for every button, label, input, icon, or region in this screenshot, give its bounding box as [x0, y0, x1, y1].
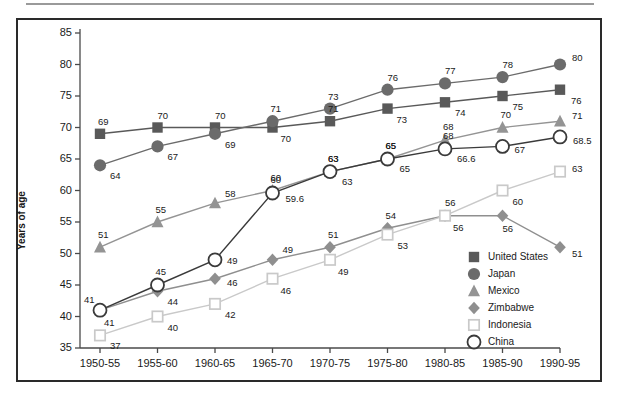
legend-item-china[interactable]: China	[464, 333, 574, 350]
legend-item-mexico[interactable]: Mexico	[464, 282, 574, 299]
data-point-label: 76	[571, 95, 582, 106]
legend-item-indonesia[interactable]: Indonesia	[464, 316, 574, 333]
filled-diamond-icon	[464, 300, 484, 316]
x-tick-label: 1955-60	[128, 357, 188, 369]
data-point-label: 37	[110, 340, 121, 351]
data-point-label: 64	[110, 170, 121, 181]
data-point-label: 60	[271, 174, 282, 185]
data-point-label: 76	[388, 72, 399, 83]
data-point-label: 67	[168, 151, 179, 162]
legend-item-label: Japan	[484, 268, 515, 279]
data-point-label: 75	[513, 101, 524, 112]
data-point-label: 68	[443, 130, 454, 141]
legend-item-japan[interactable]: Japan	[464, 265, 574, 282]
legend-item-label: Indonesia	[484, 319, 531, 330]
data-point-label: 70	[215, 110, 226, 121]
legend-item-zimbabwe[interactable]: Zimbabwe	[464, 299, 574, 316]
data-point-label: 74	[455, 107, 466, 118]
y-tick-label: 75	[40, 89, 72, 101]
data-point-label: 71	[572, 110, 583, 121]
data-point-label: 77	[445, 65, 456, 76]
y-tick-label: 45	[40, 278, 72, 290]
data-point-label: 73	[328, 91, 339, 102]
legend-item-label: United States	[484, 251, 548, 262]
data-point-label: 45	[156, 266, 167, 277]
open-circle-icon	[464, 334, 484, 350]
data-point-label: 41	[104, 317, 115, 328]
data-point-label: 46	[281, 285, 292, 296]
y-tick-label: 80	[40, 58, 72, 70]
data-point-label: 63	[572, 163, 583, 174]
data-point-label: 44	[168, 296, 179, 307]
data-point-label: 51	[328, 229, 339, 240]
y-tick-label: 35	[40, 341, 72, 353]
filled-square-icon	[464, 249, 484, 265]
data-point-label: 80	[572, 52, 583, 63]
data-point-value-label: 66.6	[457, 153, 476, 164]
legend-item-united-states[interactable]: United States	[464, 248, 574, 265]
data-point-label: 51	[98, 229, 109, 240]
x-tick-label: 1985-90	[473, 357, 533, 369]
data-point-label: 69	[98, 116, 109, 127]
data-point-value-label: 65	[400, 163, 411, 174]
legend-item-label: China	[484, 336, 514, 347]
x-tick-label: 1960-65	[185, 357, 245, 369]
data-point-label: 78	[503, 59, 514, 70]
data-point-label: 70	[158, 110, 169, 121]
data-point-label: 42	[225, 309, 236, 320]
data-point-label: 53	[398, 240, 409, 251]
data-point-label: 70	[501, 109, 512, 120]
open-square-icon	[464, 317, 484, 333]
data-point-label: 40	[168, 322, 179, 333]
y-tick-label: 55	[40, 215, 72, 227]
x-tick-label: 1980-85	[415, 357, 475, 369]
data-point-label: 60	[513, 196, 524, 207]
data-point-label: 73	[397, 114, 408, 125]
data-point-label: 55	[156, 204, 167, 215]
filled-circle-icon	[464, 266, 484, 282]
y-tick-label: 60	[40, 184, 72, 196]
y-tick-label: 50	[40, 247, 72, 259]
x-tick-label: 1990-95	[530, 357, 590, 369]
data-point-label: 46	[227, 277, 238, 288]
data-point-label: 49	[283, 244, 294, 255]
x-tick-label: 1970-75	[300, 357, 360, 369]
data-point-label: 68.5	[573, 135, 592, 146]
x-tick-label: 1975-80	[358, 357, 418, 369]
legend-item-label: Zimbabwe	[484, 302, 534, 313]
data-point-label: 69	[225, 139, 236, 150]
filled-triangle-icon	[464, 283, 484, 299]
legend-item-label: Mexico	[484, 285, 520, 296]
y-tick-label: 70	[40, 121, 72, 133]
data-point-label: 49	[338, 266, 349, 277]
y-tick-label: 40	[40, 310, 72, 322]
data-point-value-label: 63	[342, 176, 353, 187]
data-point-label: 56	[453, 222, 464, 233]
data-point-label: 71	[328, 103, 339, 114]
chart-legend: United StatesJapanMexicoZimbabweIndonesi…	[464, 248, 574, 350]
data-point-label: 70	[281, 133, 292, 144]
data-point-label: 41	[84, 294, 95, 305]
data-point-label: 63	[328, 153, 339, 164]
x-tick-label: 1965-70	[243, 357, 303, 369]
data-point-label: 71	[271, 103, 282, 114]
x-tick-label: 1950-55	[70, 357, 130, 369]
data-point-label: 54	[386, 210, 397, 221]
data-point-label: 56	[445, 197, 456, 208]
data-point-label: 56	[503, 223, 514, 234]
data-point-label: 58	[225, 188, 236, 199]
data-point-value-label: 59.6	[286, 193, 305, 204]
data-point-label: 67	[515, 144, 526, 155]
data-point-label: 65	[386, 140, 397, 151]
data-point-label: 49	[227, 255, 238, 266]
y-tick-label: 65	[40, 152, 72, 164]
y-tick-label: 85	[40, 26, 72, 38]
